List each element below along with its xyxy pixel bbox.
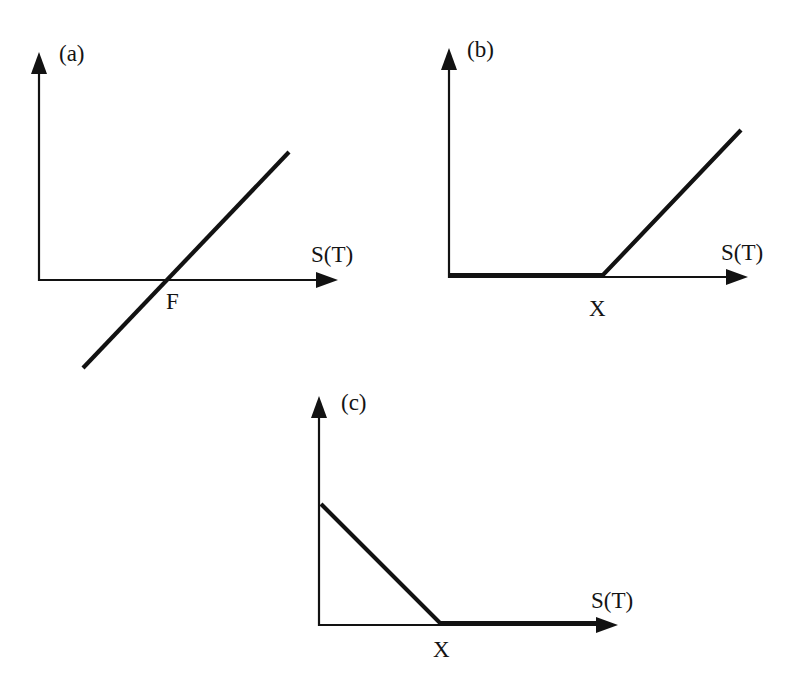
panel-a: (a) S(T) F	[31, 41, 353, 368]
payoff-diagram-figure: (a) S(T) F (b) S(T) X	[0, 0, 800, 690]
panel-c-y-axis-arrowhead	[311, 396, 327, 418]
panel-b: (b) S(T) X	[441, 37, 763, 321]
figure-canvas: (a) S(T) F (b) S(T) X	[0, 0, 800, 690]
panel-c-strike-label: X	[433, 637, 450, 662]
panel-a-figure-label: (a)	[59, 41, 85, 66]
panel-c-payoff-line	[321, 504, 600, 623]
panel-a-x-axis-arrowhead	[316, 272, 338, 288]
panel-b-figure-label: (b)	[467, 37, 494, 62]
panel-b-y-axis-arrowhead	[441, 48, 457, 70]
panel-a-payoff-line	[83, 152, 289, 368]
panel-b-x-axis-arrowhead	[726, 269, 748, 285]
panel-c-figure-label: (c)	[341, 390, 367, 415]
panel-a-x-axis-label: S(T)	[311, 242, 353, 267]
panel-c-x-axis-label: S(T)	[591, 588, 633, 613]
panel-b-x-axis-label: S(T)	[721, 240, 763, 265]
panel-a-y-axis-arrowhead	[31, 52, 47, 74]
panel-c: (c) S(T) X	[311, 390, 633, 662]
panel-a-strike-label: F	[166, 289, 179, 314]
panel-b-strike-label: X	[589, 296, 606, 321]
panel-b-payoff-line	[450, 130, 741, 275]
